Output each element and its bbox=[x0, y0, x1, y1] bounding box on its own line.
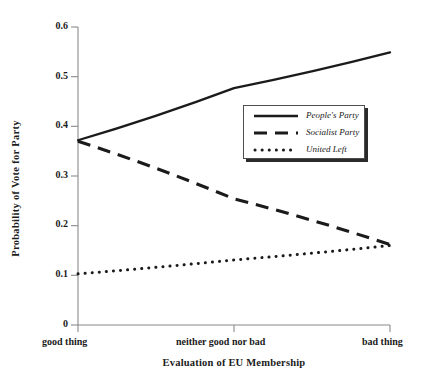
legend-swatch-solid-icon bbox=[252, 107, 300, 125]
y-tick-label-0.1: 0.1 bbox=[28, 268, 68, 279]
legend-swatch-dashed-icon bbox=[252, 124, 300, 142]
x-tick-label-good-thing: good thing bbox=[42, 336, 87, 347]
x-axis-ticks bbox=[78, 325, 390, 332]
legend-label-united-left: United Left bbox=[306, 144, 347, 154]
y-tick-label-0.4: 0.4 bbox=[28, 119, 68, 130]
legend-item-united-left: United Left bbox=[244, 141, 366, 159]
y-tick-label-0.6: 0.6 bbox=[28, 20, 68, 31]
y-tick-label-0: 0 bbox=[28, 318, 68, 329]
y-axis-ticks bbox=[71, 27, 78, 325]
chart-legend: People's Party Socialist Party United Le… bbox=[243, 105, 365, 159]
series-line-united-left bbox=[78, 246, 390, 274]
y-tick-label-0.5: 0.5 bbox=[28, 70, 68, 81]
legend-item-peoples-party: People's Party bbox=[244, 107, 366, 125]
y-tick-label-0.3: 0.3 bbox=[28, 169, 68, 180]
chart-figure: Probability of Vote for Party 0.6 0.5 0.… bbox=[0, 0, 431, 383]
legend-item-socialist-party: Socialist Party bbox=[244, 124, 366, 142]
legend-label-peoples-party: People's Party bbox=[306, 110, 359, 120]
legend-label-socialist-party: Socialist Party bbox=[306, 127, 359, 137]
x-tick-label-bad-thing: bad thing bbox=[362, 336, 403, 347]
legend-swatch-dotted-icon bbox=[252, 141, 300, 159]
y-axis-title-wrapper: Probability of Vote for Party bbox=[0, 88, 30, 298]
x-tick-label-neither-good-nor-bad: neither good nor bad bbox=[176, 336, 265, 347]
x-axis-title: Evaluation of EU Membership bbox=[78, 357, 390, 368]
y-tick-label-0.2: 0.2 bbox=[28, 218, 68, 229]
y-axis-title: Probability of Vote for Party bbox=[10, 84, 21, 294]
